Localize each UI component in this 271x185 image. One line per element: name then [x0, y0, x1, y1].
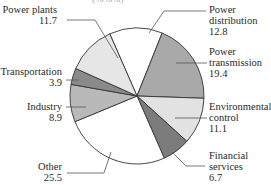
label-name-2: control	[209, 112, 271, 123]
leader-financial-services	[172, 152, 205, 166]
label-name: Industry	[27, 101, 62, 112]
label-transportation: Transportation 3.9	[1, 66, 62, 88]
label-environmental-control: Environmental control 11.1	[209, 101, 271, 134]
label-value: 8.9	[27, 112, 62, 123]
label-name-2: distribution	[209, 15, 257, 26]
label-name-2: services	[209, 161, 248, 172]
label-power-distribution: Power distribution 12.8	[209, 4, 257, 37]
label-name: Power	[209, 4, 257, 15]
label-financial-services: Financial services 6.7	[209, 150, 248, 183]
label-name: Power	[209, 46, 262, 57]
label-name: Financial	[209, 150, 248, 161]
label-power-transmission: Power transmission 19.4	[209, 46, 262, 79]
label-name: Transportation	[1, 66, 62, 77]
label-name-2: transmission	[209, 57, 262, 68]
pie-slices	[70, 28, 204, 164]
label-value: 11.1	[209, 123, 271, 134]
label-value: 3.9	[1, 77, 62, 88]
label-power-plants: Power plants 11.7	[2, 4, 57, 26]
label-name: Power plants	[2, 4, 57, 15]
label-value: 6.7	[209, 172, 248, 183]
label-industry: Industry 8.9	[27, 101, 62, 123]
leader-power-distribution	[149, 11, 206, 33]
label-value: 12.8	[209, 26, 257, 37]
label-other: Other 25.5	[38, 161, 62, 183]
label-value: 19.4	[209, 68, 262, 79]
label-name: Other	[38, 161, 62, 172]
label-value: 25.5	[38, 172, 62, 183]
truncated-title: (%%%)	[92, 0, 124, 4]
label-name: Environmental	[209, 101, 271, 112]
label-value: 11.7	[2, 15, 57, 26]
